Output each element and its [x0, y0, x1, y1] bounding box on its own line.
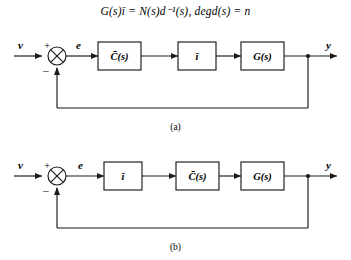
output-label-a: y	[324, 39, 331, 51]
input-wire-a	[14, 53, 42, 59]
error-wire-a	[66, 53, 98, 59]
block-b-1: ī	[104, 162, 142, 190]
block-a-2: ī	[178, 42, 216, 70]
block-a-3: G(s)	[241, 42, 284, 70]
wire-a-2-3	[216, 53, 241, 59]
block-b-2-label: C̄(s)	[188, 171, 206, 183]
wire-b-1-2	[142, 173, 176, 179]
block-b-3: G(s)	[241, 162, 284, 190]
sum-plus-sign-a: +	[44, 39, 50, 51]
error-label-b: e	[78, 159, 83, 171]
output-label-b: y	[324, 159, 331, 171]
block-diagram-b: v + – e ī C̄(s)	[0, 148, 351, 244]
summing-junction-a	[48, 47, 66, 65]
output-wire-a	[284, 53, 337, 59]
wire-a-1-2	[141, 53, 178, 59]
block-b-3-label: G(s)	[253, 171, 272, 183]
summing-junction-b	[48, 167, 66, 185]
block-a-3-label: G(s)	[253, 51, 272, 63]
output-wire-b	[284, 173, 337, 179]
block-b-2: C̄(s)	[176, 162, 219, 190]
input-label-a: v	[18, 39, 23, 51]
caption-b: (b)	[0, 242, 351, 252]
sum-minus-sign-b: –	[42, 184, 49, 196]
block-a-1: C̄(s)	[98, 42, 141, 70]
input-wire-b	[14, 173, 42, 179]
input-label-b: v	[18, 159, 23, 171]
sum-minus-sign-a: –	[42, 64, 49, 76]
sum-plus-sign-b: +	[44, 159, 50, 171]
block-diagram-a: v + – e C̄(s) ī	[0, 28, 351, 124]
block-a-1-label: C̄(s)	[110, 51, 128, 63]
wire-b-2-3	[219, 173, 241, 179]
error-label-a: e	[76, 39, 81, 51]
equation-line: G(s)ī = N(s)d⁻¹(s), degd(s) = n	[0, 4, 351, 18]
error-wire-b	[66, 173, 104, 179]
caption-a: (a)	[0, 122, 351, 132]
